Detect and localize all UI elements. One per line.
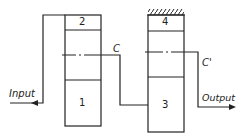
block-4-label: 4: [162, 17, 168, 27]
input-arrow: [31, 100, 38, 106]
input-label: Input: [9, 89, 35, 99]
diagram-lines: [0, 0, 239, 139]
block-2-label: 2: [79, 17, 85, 27]
c-prime-label: C': [202, 58, 212, 68]
block-3-label: 3: [162, 100, 168, 110]
left-block: [65, 15, 101, 126]
block-1-label: 1: [79, 98, 85, 108]
output-label: Output: [202, 93, 235, 103]
right-block: [147, 15, 185, 132]
c-label: C: [113, 44, 120, 54]
link-c: [101, 55, 148, 105]
output-arrow: [229, 104, 236, 110]
ground-hatch: [148, 9, 184, 15]
mechanism-diagram: 2 1 4 3 Input Output C C': [0, 0, 239, 139]
